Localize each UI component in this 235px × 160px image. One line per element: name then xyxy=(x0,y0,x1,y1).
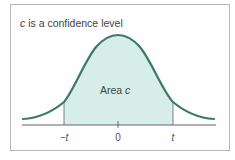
area-label: Area c xyxy=(100,84,130,96)
tick-label-t: t xyxy=(172,132,175,143)
diagram-title: c is a confidence level xyxy=(20,17,123,29)
tick-label-zero: 0 xyxy=(115,132,121,143)
shaded-area xyxy=(64,35,173,125)
tick-label-neg-t: −t xyxy=(60,132,69,143)
